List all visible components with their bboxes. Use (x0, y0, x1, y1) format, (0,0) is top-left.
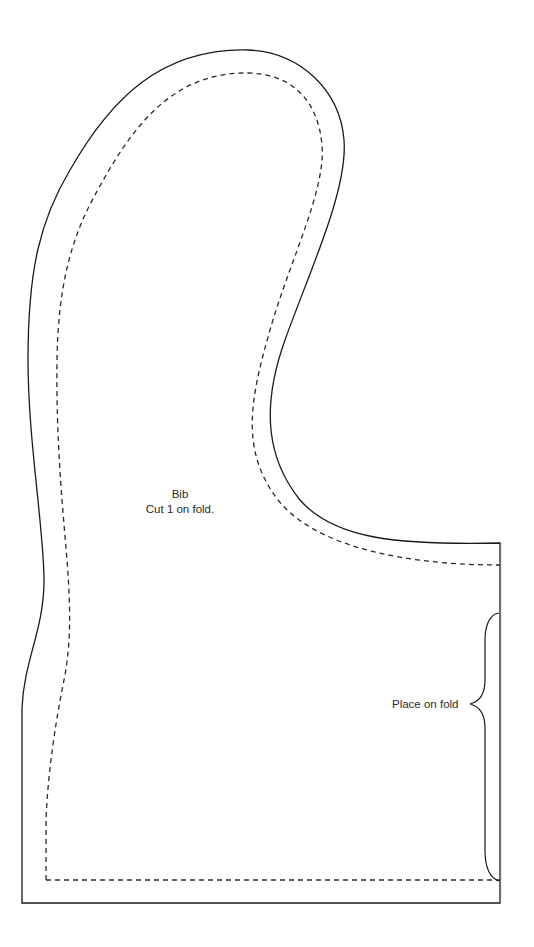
fold-instruction: Place on fold (392, 697, 459, 712)
cut-line (22, 50, 500, 903)
cut-instruction: Cut 1 on fold. (120, 502, 240, 517)
fold-bracket-icon (470, 613, 499, 881)
piece-name: Bib (120, 487, 240, 502)
bib-pattern-piece (0, 0, 534, 947)
seam-allowance-line (46, 73, 500, 880)
pattern-label: Bib Cut 1 on fold. (120, 487, 240, 517)
